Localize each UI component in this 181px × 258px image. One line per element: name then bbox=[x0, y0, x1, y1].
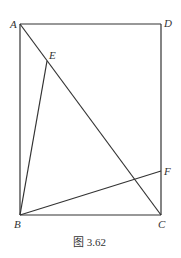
label-F: F bbox=[163, 165, 171, 177]
label-C: C bbox=[158, 218, 166, 230]
figure-caption: 图 3.62 bbox=[73, 236, 106, 248]
label-D: D bbox=[163, 17, 172, 29]
segment-BE bbox=[20, 61, 47, 215]
geometry-figure: A D E F B C 图 3.62 bbox=[0, 0, 181, 258]
label-B: B bbox=[14, 218, 21, 230]
segment-BF bbox=[20, 171, 161, 215]
label-A: A bbox=[9, 18, 17, 30]
segment-AC bbox=[20, 24, 161, 215]
label-E: E bbox=[48, 49, 56, 61]
